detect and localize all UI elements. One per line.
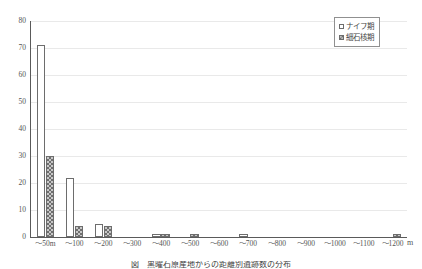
y-axis-tick-label: 20 — [19, 179, 27, 187]
bar-group — [349, 21, 378, 237]
bar-group — [176, 21, 205, 237]
bar-group — [147, 21, 176, 237]
x-axis-tick-label: ～50m — [35, 240, 55, 248]
bar-core — [75, 226, 84, 237]
x-axis-tick-label: ～700 — [239, 240, 257, 248]
hatched-square-marker-icon — [339, 35, 344, 40]
legend-label-core: 細石核期 — [346, 34, 374, 42]
plot-area: 01020304050607080 — [30, 21, 407, 238]
bar-group — [31, 21, 60, 237]
x-axis-tick-label: ～900 — [297, 240, 315, 248]
y-axis-tick-label: 80 — [19, 17, 27, 25]
figure-caption: 図 黒曜石原産地からの距離別遺跡数の分布 — [0, 261, 422, 269]
bars-layer — [31, 21, 407, 237]
y-axis-tick-label: 60 — [19, 71, 27, 79]
bar-group — [205, 21, 234, 237]
y-axis-tick-label: 30 — [19, 152, 27, 160]
bar-core — [190, 234, 199, 237]
bar-core — [161, 234, 170, 237]
bar-core — [46, 156, 55, 237]
bar-group — [118, 21, 147, 237]
bar-knife — [66, 178, 75, 237]
x-axis-tick-label: ～500 — [181, 240, 199, 248]
x-axis-tick-label: ～1100 — [353, 240, 375, 248]
bar-knife — [152, 234, 161, 237]
bar-knife — [37, 45, 46, 237]
legend-item-core: 細石核期 — [339, 32, 374, 43]
bar-knife — [239, 234, 248, 237]
y-axis-tick-label: 10 — [19, 206, 27, 214]
bar-group — [320, 21, 349, 237]
x-axis-unit-label: m — [407, 238, 413, 247]
bar-group — [89, 21, 118, 237]
x-axis-tick-label: ～200 — [94, 240, 112, 248]
bar-core — [104, 226, 113, 237]
x-axis-tick-label: ～600 — [210, 240, 228, 248]
y-axis-tick-label: 0 — [22, 233, 26, 241]
y-axis-tick-label: 70 — [19, 44, 27, 52]
x-axis-line — [30, 237, 407, 238]
chart-legend: ナイフ期 細石核期 — [334, 17, 380, 47]
bar-group — [262, 21, 291, 237]
x-axis-tick-label: ～300 — [123, 240, 141, 248]
legend-label-knife: ナイフ期 — [346, 23, 374, 31]
x-axis-tick-label: ～100 — [65, 240, 83, 248]
bar-core — [393, 234, 402, 237]
bar-chart-figure: 01020304050607080 ～50m～100～200～300～400～5… — [0, 0, 422, 269]
x-axis-tick-label: ～1200 — [382, 240, 404, 248]
x-axis-tick-label: ～1000 — [324, 240, 346, 248]
legend-item-knife: ナイフ期 — [339, 21, 374, 32]
x-axis-tick-labels: ～50m～100～200～300～400～500～600～700～800～900… — [30, 240, 407, 254]
bar-group — [60, 21, 89, 237]
y-axis-tick-label: 50 — [19, 98, 27, 106]
x-axis-tick-label: ～400 — [152, 240, 170, 248]
bar-group — [233, 21, 262, 237]
y-axis-tick-label: 40 — [19, 125, 27, 133]
x-axis-tick-label: ～800 — [268, 240, 286, 248]
bar-group — [378, 21, 407, 237]
open-square-marker-icon — [339, 24, 344, 29]
bar-group — [291, 21, 320, 237]
bar-knife — [95, 224, 104, 238]
